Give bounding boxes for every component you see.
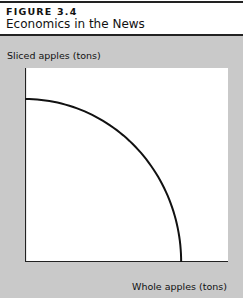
figure-label: FIGURE 3.4: [6, 6, 77, 17]
plot-area: [25, 68, 228, 262]
top-rule: [0, 1, 243, 3]
x-axis-label: Whole apples (tons): [132, 281, 227, 292]
figure-title: Economics in the News: [6, 17, 145, 31]
y-axis-label: Sliced apples (tons): [7, 50, 101, 61]
ppf-curve: [25, 99, 181, 262]
ppf-chart: [25, 68, 228, 262]
